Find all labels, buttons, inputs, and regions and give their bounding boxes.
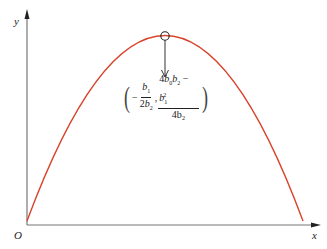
x-axis-label: x [312, 229, 317, 241]
left-paren: ( [124, 82, 130, 112]
x-coordinate-fraction: b1 2b2 [139, 81, 154, 114]
x-numerator: b1 [141, 81, 151, 98]
separator: , [155, 92, 158, 103]
vertex-coordinates: ( − b1 2b2 , 4b0b2 − b12 4b₂ ) [122, 80, 210, 114]
parabola-diagram [0, 0, 327, 249]
minus-sign: − [132, 92, 138, 103]
y-numerator: 4b0b2 − b12 [158, 73, 199, 109]
y-denominator: 4b₂ [171, 109, 187, 121]
x-denominator: 2b2 [139, 98, 154, 114]
origin-label: O [14, 229, 22, 241]
x-axis-arrow-icon [311, 223, 321, 228]
y-axis-arrow-icon [25, 9, 30, 19]
y-axis-label: y [14, 15, 19, 27]
y-coordinate-fraction: 4b0b2 − b12 4b₂ [158, 73, 199, 121]
right-paren: ) [202, 82, 208, 112]
